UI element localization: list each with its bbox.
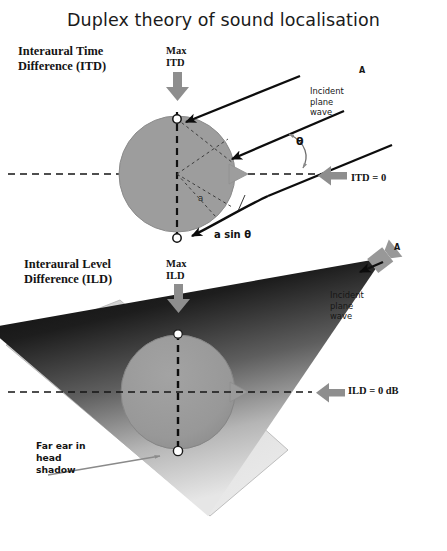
incident-ray-1: [186, 76, 300, 122]
source-marker-top: A: [359, 66, 365, 75]
path-difference-label: a sin θ: [214, 229, 251, 240]
max-itd-label: Max ITD: [166, 45, 186, 68]
ear-marker-far-bottom: [173, 446, 182, 455]
theta-label: θ: [296, 135, 304, 148]
ear-marker-near-bottom: [174, 330, 182, 338]
itd-panel-label: Interaural Time Difference (ITD): [18, 44, 106, 73]
page-title: Duplex theory of sound localisation: [0, 10, 447, 30]
max-ild-label: Max ILD: [166, 258, 186, 281]
max-itd-arrow-icon: [166, 72, 189, 101]
incident-wave-label-bottom: Incident plane wave: [330, 290, 364, 322]
radius-label: a: [198, 193, 203, 203]
ild-zero-arrow-icon: [316, 383, 345, 403]
source-marker-bottom: A: [394, 243, 400, 252]
itd-zero-label: ITD = 0: [351, 172, 386, 183]
ear-marker-near-top: [173, 115, 181, 123]
incident-ray-2: [232, 111, 344, 159]
ear-marker-far-top: [173, 234, 181, 242]
ild-zero-label: ILD = 0 dB: [348, 385, 399, 396]
incident-wave-label-top: Incident plane wave: [310, 86, 344, 118]
diagram-canvas: Duplex theory of sound localisation Inte…: [0, 0, 447, 551]
head-shadow-label: Far ear in head shadow: [36, 440, 86, 476]
ild-panel-label: Interaural Level Difference (ILD): [24, 257, 112, 286]
nose-top: [229, 164, 248, 184]
